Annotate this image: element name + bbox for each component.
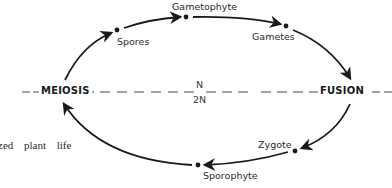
- arrow-gametes-to-fusion: [293, 30, 350, 78]
- meiosis-label: MEIOSIS: [39, 86, 92, 96]
- arrow-fusion-to-zygote: [302, 104, 350, 148]
- figure-caption-fragment: zed plant life: [0, 140, 71, 151]
- arrow-gametophyte-to-gametes: [193, 17, 280, 24]
- life-cycle-diagram: Gametophyte Spores Gametes Zygote Sporop…: [0, 0, 392, 188]
- gametes-dot: [284, 24, 289, 29]
- sporophyte-dot: [196, 163, 201, 168]
- arrow-sporophyte-to-meiosis: [64, 104, 192, 165]
- spores-dot: [115, 28, 120, 33]
- gametophyte-label: Gametophyte: [172, 2, 237, 12]
- arrow-spores-to-gametophyte: [124, 17, 180, 28]
- spores-label: Spores: [117, 37, 149, 47]
- zygote-dot: [293, 149, 298, 154]
- zygote-label: Zygote: [258, 140, 292, 150]
- gametes-label: Gametes: [252, 32, 295, 42]
- gametophyte-dot: [184, 15, 189, 20]
- arrow-zygote-to-sporophyte: [205, 152, 288, 165]
- sporophyte-label: Sporophyte: [203, 171, 258, 181]
- arrow-meiosis-to-spores: [65, 33, 111, 80]
- haploid-label: N: [196, 80, 203, 90]
- fusion-label: FUSION: [318, 86, 366, 96]
- diploid-label: 2N: [193, 95, 206, 105]
